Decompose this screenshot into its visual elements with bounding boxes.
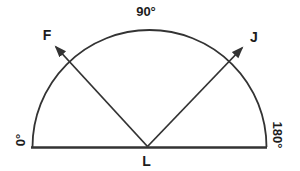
protractor-diagram: 90° 0° 180° F J L <box>0 0 300 171</box>
ray-j <box>148 48 243 147</box>
semicircle-arc <box>33 30 267 147</box>
ray-j-label: J <box>250 29 258 45</box>
ray-f-label: F <box>43 27 52 43</box>
right-angle-label: 180° <box>270 122 285 149</box>
top-angle-label: 90° <box>136 4 156 19</box>
protractor-diagram-canvas: 90° 0° 180° F J L <box>0 0 300 171</box>
ray-f <box>56 47 148 147</box>
vertex-label: L <box>142 153 151 169</box>
left-angle-label: 0° <box>13 134 28 146</box>
